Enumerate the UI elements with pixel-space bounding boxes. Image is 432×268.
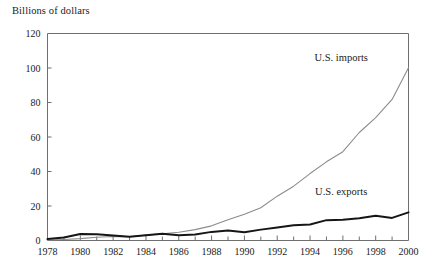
series-line-u-s-imports bbox=[48, 68, 409, 240]
x-tick-label: 1978 bbox=[38, 246, 58, 257]
series-label: U.S. exports bbox=[315, 186, 367, 197]
x-axis-tick-labels: 1978198019821984198619881990199219941996… bbox=[38, 246, 419, 257]
chart-figure: Billions of dollars 020406080100120 1978… bbox=[0, 0, 432, 268]
x-tick-label: 1998 bbox=[366, 246, 386, 257]
series-line-u-s-exports bbox=[48, 212, 409, 239]
y-tick-label: 0 bbox=[36, 235, 41, 246]
x-tick-label: 1990 bbox=[234, 246, 254, 257]
x-tick-label: 1986 bbox=[169, 246, 189, 257]
line-chart-plot: 020406080100120 197819801982198419861988… bbox=[0, 0, 432, 268]
y-tick-label: 60 bbox=[31, 132, 41, 143]
series-annotations: U.S. importsU.S. exports bbox=[315, 52, 368, 197]
x-tick-label: 1994 bbox=[300, 246, 320, 257]
x-tick-label: 1988 bbox=[202, 246, 222, 257]
y-tick-label: 40 bbox=[31, 166, 41, 177]
data-series-group bbox=[48, 68, 409, 240]
y-axis-ticks bbox=[48, 68, 52, 206]
y-tick-label: 120 bbox=[26, 28, 41, 39]
x-tick-label: 1980 bbox=[70, 246, 90, 257]
x-tick-label: 1982 bbox=[103, 246, 123, 257]
x-tick-label: 2000 bbox=[399, 246, 419, 257]
series-label: U.S. imports bbox=[315, 52, 368, 63]
x-tick-label: 1984 bbox=[136, 246, 156, 257]
y-tick-label: 80 bbox=[31, 97, 41, 108]
y-tick-label: 20 bbox=[31, 201, 41, 212]
x-tick-label: 1992 bbox=[267, 246, 287, 257]
y-axis-tick-labels: 020406080100120 bbox=[26, 28, 41, 246]
plot-frame bbox=[48, 34, 409, 241]
y-tick-label: 100 bbox=[26, 63, 41, 74]
x-tick-label: 1996 bbox=[333, 246, 353, 257]
axis-lines bbox=[48, 34, 409, 241]
